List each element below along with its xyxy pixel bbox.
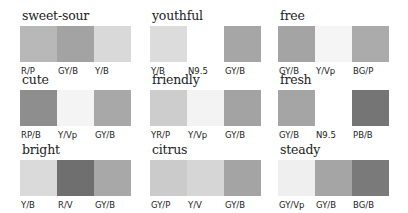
- color-swatch: [20, 26, 57, 62]
- swatch-label: Y/Vp: [315, 66, 352, 76]
- color-swatch: [20, 160, 57, 196]
- swatch-row: [278, 160, 389, 196]
- color-swatch: [57, 90, 94, 126]
- color-swatch: [150, 90, 187, 126]
- color-swatch: [224, 90, 261, 126]
- color-swatch: [278, 90, 315, 126]
- color-swatch: [150, 160, 187, 196]
- group-title: citrus: [152, 142, 187, 157]
- swatch-row: [150, 160, 261, 196]
- color-swatch: [20, 90, 57, 126]
- label-row: RP/BY/VpGY/B: [20, 130, 131, 140]
- group-title: friendly: [152, 72, 200, 87]
- swatch-label: Y/B: [20, 200, 57, 210]
- label-row: Y/BR/VGY/B: [20, 200, 131, 210]
- color-swatch: [187, 90, 224, 126]
- swatch-label: GY/B: [224, 66, 261, 76]
- swatch-label: Y/B: [94, 66, 131, 76]
- swatch-row: [20, 90, 131, 126]
- group-title: bright: [22, 142, 60, 157]
- swatch-label: GY/B: [224, 130, 261, 140]
- swatch-row: [278, 26, 389, 62]
- swatch-label: N9.5: [315, 130, 352, 140]
- group-title: sweet-sour: [22, 8, 89, 23]
- label-row: GY/VpGY/BBG/B: [278, 200, 389, 210]
- group-title: youthful: [152, 8, 203, 23]
- color-swatch: [278, 26, 315, 62]
- swatch-label: GY/B: [57, 66, 94, 76]
- group-title: cute: [22, 72, 49, 87]
- swatch-label: GY/B: [94, 200, 131, 210]
- color-swatch: [57, 160, 94, 196]
- swatch-row: [150, 26, 261, 62]
- group-title: steady: [280, 142, 320, 157]
- color-swatch: [352, 160, 389, 196]
- color-swatch: [150, 26, 187, 62]
- swatch-row: [20, 26, 131, 62]
- swatch-label: PB/B: [352, 130, 389, 140]
- swatch-label: GY/B: [315, 200, 352, 210]
- swatch-label: GY/P: [150, 200, 187, 210]
- swatch-label: RP/B: [20, 130, 57, 140]
- swatch-row: [20, 160, 131, 196]
- color-swatch: [315, 90, 352, 126]
- color-swatch: [94, 26, 131, 62]
- color-swatch: [352, 26, 389, 62]
- group-title: free: [280, 8, 305, 23]
- color-swatch: [187, 160, 224, 196]
- swatch-label: Y/Vp: [187, 130, 224, 140]
- color-swatch: [315, 160, 352, 196]
- swatch-row: [278, 90, 389, 126]
- swatch-label: BG/B: [352, 200, 389, 210]
- swatch-label: GY/B: [278, 130, 315, 140]
- label-row: GY/PY/VGY/B: [150, 200, 261, 210]
- swatch-label: YR/P: [150, 130, 187, 140]
- color-swatch: [187, 26, 224, 62]
- color-swatch: [94, 160, 131, 196]
- swatch-label: BG/P: [352, 66, 389, 76]
- color-swatch: [57, 26, 94, 62]
- swatch-label: R/V: [57, 200, 94, 210]
- label-row: YR/PY/VpGY/B: [150, 130, 261, 140]
- color-swatch: [352, 90, 389, 126]
- swatch-row: [150, 90, 261, 126]
- swatch-label: GY/B: [224, 200, 261, 210]
- swatch-label: GY/Vp: [278, 200, 315, 210]
- swatch-label: Y/V: [187, 200, 224, 210]
- color-swatch: [94, 90, 131, 126]
- group-title: fresh: [280, 72, 311, 87]
- color-swatch: [224, 160, 261, 196]
- swatch-label: Y/Vp: [57, 130, 94, 140]
- color-swatch: [224, 26, 261, 62]
- swatch-label: GY/B: [94, 130, 131, 140]
- color-swatch: [278, 160, 315, 196]
- color-swatch: [315, 26, 352, 62]
- label-row: GY/BN9.5PB/B: [278, 130, 389, 140]
